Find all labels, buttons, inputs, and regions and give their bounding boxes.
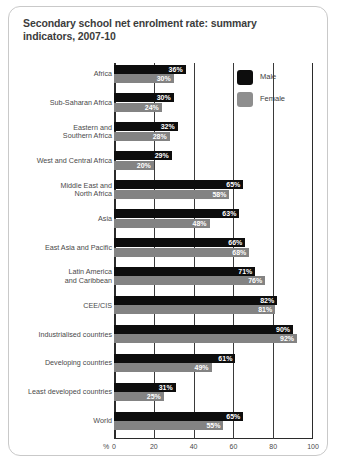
bar-female: 76% (114, 276, 265, 285)
category-label: Africa (14, 70, 112, 79)
bar-value-label: 55% (206, 421, 220, 430)
bar-male: 66% (114, 238, 245, 247)
x-tick-label: 20 (150, 443, 158, 450)
bar-male: 61% (114, 354, 235, 363)
bar-male: 63% (114, 209, 239, 218)
category-label: Middle East and North Africa (14, 182, 112, 199)
bar-value-label: 30% (157, 93, 171, 102)
bar-male: 65% (114, 180, 243, 189)
category-label: East Asia and Pacific (14, 244, 112, 253)
bar-value-label: 32% (161, 122, 175, 131)
bar-male: 82% (114, 296, 277, 305)
bar-female: 20% (114, 161, 154, 170)
x-tick-label: 100 (307, 443, 319, 450)
x-tick-label: 60 (229, 443, 237, 450)
bar-value-label: 66% (228, 238, 242, 247)
bar-group: 71%76% (114, 267, 313, 296)
legend-item: Male (237, 69, 317, 89)
bar-value-label: 31% (159, 383, 173, 392)
chart-card: Secondary school net enrolment rate: sum… (8, 6, 328, 456)
bar-group: 90%92% (114, 325, 313, 354)
bar-value-label: 29% (155, 151, 169, 160)
legend-swatch (237, 92, 253, 107)
bar-group: 61%49% (114, 354, 313, 383)
bar-value-label: 65% (226, 180, 240, 189)
bar-female: 28% (114, 132, 170, 141)
category-label: West and Central Africa (14, 157, 112, 166)
bar-value-label: 49% (194, 363, 208, 372)
category-label: Industrialised countries (14, 331, 112, 340)
bar-value-label: 58% (212, 190, 226, 199)
bar-male: 31% (114, 383, 176, 392)
bar-value-label: 63% (222, 209, 236, 218)
bar-value-label: 68% (232, 248, 246, 257)
bar-value-label: 25% (147, 392, 161, 401)
legend-item: Female (237, 91, 317, 111)
category-labels: AfricaSub-Saharan AfricaEastern and Sout… (9, 63, 112, 439)
bar-value-label: 36% (169, 65, 183, 74)
bar-value-label: 65% (226, 412, 240, 421)
x-tick-label: 40 (190, 443, 198, 450)
x-tick-label: 80 (269, 443, 277, 450)
bar-value-label: 20% (137, 161, 151, 170)
x-tick-label: 0 (112, 443, 116, 450)
bar-male: 71% (114, 267, 255, 276)
bar-female: 30% (114, 74, 174, 83)
legend-label: Female (260, 94, 285, 103)
bar-group: 65%55% (114, 412, 313, 441)
bar-group: 82%81% (114, 296, 313, 325)
legend-label: Male (260, 72, 276, 81)
category-label: CEE/CIS (14, 302, 112, 311)
bar-group: 31%25% (114, 383, 313, 412)
bar-female: 24% (114, 103, 162, 112)
bar-male: 30% (114, 93, 174, 102)
bar-female: 92% (114, 334, 297, 343)
bar-value-label: 24% (145, 103, 159, 112)
bar-group: 66%68% (114, 238, 313, 267)
legend-swatch (237, 70, 253, 85)
bar-value-label: 76% (248, 276, 262, 285)
chart-legend: MaleFemale (237, 69, 317, 113)
bar-male: 65% (114, 412, 243, 421)
category-label: Least developed countries (14, 388, 112, 397)
bar-female: 55% (114, 421, 223, 430)
bar-group: 32%28% (114, 122, 313, 151)
bar-group: 63%48% (114, 209, 313, 238)
bar-female: 48% (114, 219, 210, 228)
category-label: World (14, 417, 112, 426)
bar-value-label: 81% (258, 305, 272, 314)
bar-male: 32% (114, 122, 178, 131)
bar-value-label: 48% (193, 219, 207, 228)
bar-group: 29%20% (114, 151, 313, 180)
category-label: Latin America and Caribbean (14, 268, 112, 285)
bar-female: 25% (114, 392, 164, 401)
category-label: Asia (14, 215, 112, 224)
category-label: Sub-Saharan Africa (14, 99, 112, 108)
bar-group: 65%58% (114, 180, 313, 209)
bar-value-label: 90% (276, 325, 290, 334)
bar-value-label: 82% (260, 296, 274, 305)
bar-value-label: 71% (238, 267, 252, 276)
x-axis-ticks: 020406080100 (114, 443, 324, 455)
x-axis-unit-label: % (103, 443, 109, 450)
bar-value-label: 28% (153, 132, 167, 141)
category-label: Eastern and Southern Africa (14, 124, 112, 141)
bar-value-label: 30% (157, 74, 171, 83)
plot-area: 36%30%30%24%32%28%29%20%65%58%63%48%66%6… (114, 63, 313, 439)
bar-male: 29% (114, 151, 172, 160)
bar-female: 58% (114, 190, 229, 199)
chart-title: Secondary school net enrolment rate: sum… (23, 17, 303, 43)
category-label: Developing countries (14, 359, 112, 368)
bar-male: 36% (114, 65, 186, 74)
bar-female: 81% (114, 305, 275, 314)
bar-male: 90% (114, 325, 293, 334)
bar-value-label: 92% (280, 334, 294, 343)
bar-female: 49% (114, 363, 212, 372)
bar-female: 68% (114, 248, 249, 257)
bar-value-label: 61% (218, 354, 232, 363)
